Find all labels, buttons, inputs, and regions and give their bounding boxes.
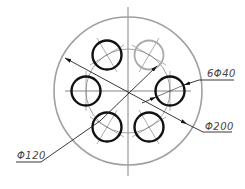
outer-diameter-label: Φ200 (205, 121, 234, 132)
dimension-bolt-circle (16, 66, 157, 162)
hole-spec-line-inner (142, 97, 156, 103)
bolt-circle-label: Φ120 (17, 150, 46, 161)
hole-spec-label: 6Φ40 (207, 68, 236, 79)
technical-drawing: Φ200 Φ120 6Φ40 (0, 0, 245, 189)
hole-spec-line-outer (184, 80, 199, 85)
